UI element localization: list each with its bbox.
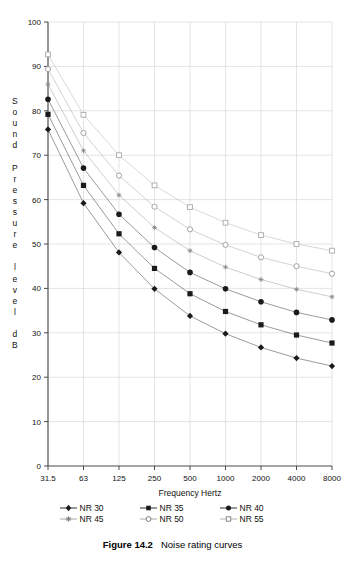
figure-caption-label: Figure 14.2 [103, 539, 153, 550]
noise-rating-chart: 010203040506070809010031.563125250500100… [0, 0, 345, 500]
data-point [258, 299, 264, 305]
data-point [152, 245, 158, 251]
data-point [258, 344, 264, 350]
data-point [187, 270, 193, 276]
data-point [223, 309, 228, 314]
legend-label-nr-50: NR 50 [160, 514, 184, 524]
legend-item-nr-50[interactable]: NR 50 [140, 514, 206, 524]
data-point [329, 271, 334, 276]
data-point [152, 225, 157, 230]
y-axis-tick-label: 40 [32, 284, 41, 293]
legend-label-nr-55: NR 55 [240, 514, 264, 524]
data-point [45, 112, 50, 117]
filled-square-icon [140, 503, 157, 513]
data-point [45, 96, 51, 102]
legend-item-nr-45[interactable]: NR 45 [60, 514, 126, 524]
legend-label-nr-45: NR 45 [80, 514, 104, 524]
x-axis-tick-label: 500 [183, 474, 197, 483]
star-icon [60, 514, 77, 524]
data-point [152, 183, 157, 188]
data-point [81, 130, 86, 135]
data-point [187, 291, 192, 296]
data-point [81, 183, 86, 188]
data-point [293, 355, 299, 361]
data-point [258, 322, 263, 327]
open-square-icon [220, 514, 237, 524]
data-point [152, 266, 157, 271]
legend-item-nr-55[interactable]: NR 55 [220, 514, 286, 524]
x-axis-tick-label: 125 [112, 474, 126, 483]
data-point [46, 82, 51, 87]
data-point [117, 153, 122, 158]
legend-label-nr-30: NR 30 [80, 503, 104, 513]
data-point [81, 112, 86, 117]
x-axis-tick-label: 8000 [323, 474, 341, 483]
data-point [329, 317, 335, 323]
data-point [223, 220, 228, 225]
data-point [45, 66, 50, 71]
y-axis-tick-label: 30 [32, 329, 41, 338]
legend-item-nr-35[interactable]: NR 35 [140, 503, 206, 513]
data-point [294, 242, 299, 247]
chart-legend: NR 30 NR 35 NR 40 [0, 503, 345, 525]
filled-diamond-icon [60, 503, 77, 513]
data-point [223, 286, 229, 292]
y-axis-tick-label: 90 [32, 62, 41, 71]
data-point [81, 148, 86, 153]
data-point [259, 277, 264, 282]
open-circle-icon [140, 514, 157, 524]
y-axis-tick-label: 60 [32, 196, 41, 205]
data-point [294, 287, 299, 292]
data-point [80, 200, 86, 206]
figure-caption-text: Noise rating curves [161, 539, 242, 550]
x-axis-title: Frequency Hertz [159, 488, 222, 498]
data-point [223, 242, 228, 247]
data-point [258, 255, 263, 260]
data-point [222, 331, 228, 337]
data-point [152, 204, 157, 209]
data-point [116, 211, 122, 217]
y-axis-tick-label: 80 [32, 107, 41, 116]
data-point [188, 205, 193, 210]
legend-item-nr-30[interactable]: NR 30 [60, 503, 126, 513]
legend-row-1: NR 30 NR 35 NR 40 [0, 503, 345, 513]
data-point [329, 340, 334, 345]
legend-row-2: NR 45 NR 50 NR 55 [0, 514, 345, 524]
data-point [294, 264, 299, 269]
data-point [187, 313, 193, 319]
data-point [294, 310, 300, 316]
legend-label-nr-35: NR 35 [160, 503, 184, 513]
y-axis-tick-label: 0 [37, 462, 42, 471]
data-point [187, 227, 192, 232]
y-axis-tick-label: 20 [32, 373, 41, 382]
x-axis-tick-label: 1000 [217, 474, 235, 483]
legend-label-nr-40: NR 40 [240, 503, 264, 513]
data-point [259, 233, 264, 238]
data-point [117, 193, 122, 198]
data-point [223, 265, 228, 270]
filled-circle-icon [220, 503, 237, 513]
figure-container: 010203040506070809010031.563125250500100… [0, 0, 345, 569]
legend-item-nr-40[interactable]: NR 40 [220, 503, 286, 513]
data-point [116, 231, 121, 236]
chart-svg: 010203040506070809010031.563125250500100… [0, 0, 345, 500]
data-point [330, 248, 335, 253]
x-axis-tick-label: 2000 [252, 474, 270, 483]
data-point [46, 52, 51, 57]
y-axis-tick-label: 70 [32, 151, 41, 160]
x-axis-tick-label: 31.5 [40, 474, 56, 483]
data-point [45, 126, 51, 132]
data-point [188, 248, 193, 253]
data-point [116, 173, 121, 178]
data-point [294, 332, 299, 337]
y-axis-tick-label: 10 [32, 418, 41, 427]
x-axis-tick-label: 250 [148, 474, 162, 483]
data-point [329, 363, 335, 369]
data-point [81, 165, 87, 171]
data-point [330, 294, 335, 299]
y-axis-title: S o u n d P r e s s u r e l e v e l d B [6, 96, 24, 351]
y-axis-tick-label: 50 [32, 240, 41, 249]
y-axis-tick-label: 100 [28, 18, 42, 27]
x-axis-tick-label: 4000 [288, 474, 306, 483]
x-axis-tick-label: 63 [79, 474, 88, 483]
